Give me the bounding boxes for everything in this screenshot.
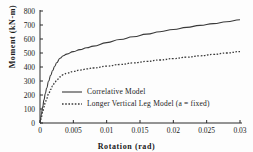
chart-figure: Moment (kN-m) Rotation (rad) 01002003004… bbox=[0, 0, 253, 152]
legend-label: Correlative Model bbox=[87, 87, 146, 96]
plot-area bbox=[0, 0, 253, 152]
legend-samples bbox=[62, 92, 82, 104]
legend-label: Longer Vertical Leg Model (a = fixed) bbox=[87, 99, 210, 108]
